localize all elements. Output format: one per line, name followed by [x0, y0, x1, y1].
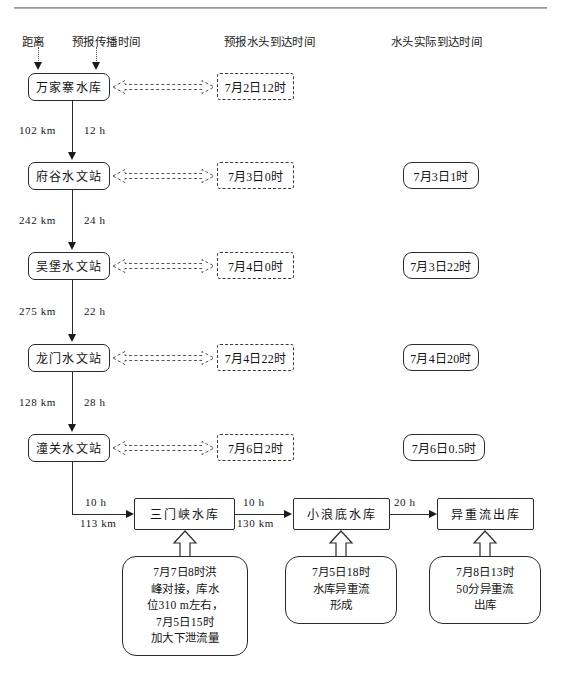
- link-arrow-fugu: [112, 167, 215, 185]
- station-box-fugu[interactable]: 府谷水文站: [28, 162, 110, 190]
- segment-distance-4: 128 km: [19, 396, 56, 408]
- column-header-travel-time: 预报传播时间: [72, 33, 140, 49]
- station-box-tongguan[interactable]: 潼关水文站: [28, 434, 110, 462]
- station-box-wanjiazhai[interactable]: 万家寨水库: [28, 73, 110, 101]
- tongguan-link-time: 10 h: [85, 496, 107, 508]
- forecast-box-fugu[interactable]: 7月3日0时: [217, 162, 294, 189]
- trunk-line-2: [72, 190, 73, 244]
- column-header-distance: 距离: [22, 33, 45, 49]
- note-line: 7月8日13时: [436, 564, 534, 581]
- station-box-longmen[interactable]: 龙门水文站: [28, 344, 110, 372]
- note-box-sanmenxia[interactable]: 7月7日8时洪 峰对接，库水 位310 m左右， 7月5日15时 加大下泄流量: [122, 556, 248, 656]
- trunk-arrow-4: [68, 424, 76, 432]
- segment-distance-2: 242 km: [19, 214, 56, 226]
- link1-distance: 130 km: [237, 517, 274, 529]
- segment-time-1: 12 h: [84, 124, 106, 136]
- link-arrow-tongguan: [112, 439, 215, 457]
- flowchart-canvas: 距离 预报传播时间 预报水头到达时间 水头实际到达时间 万家寨水库 7月2日12…: [0, 0, 561, 689]
- trunk-arrow-1: [68, 152, 76, 160]
- tongguan-drop-line: [72, 462, 73, 515]
- trunk-line-1: [72, 101, 73, 154]
- reservoir-box-xiaolangdi[interactable]: 小浪底水库: [293, 498, 390, 530]
- note-arrow-outflow: [472, 530, 498, 558]
- forecast-box-tongguan[interactable]: 7月6日2时: [217, 434, 294, 461]
- trunk-line-3: [72, 280, 73, 336]
- sanmenxia-to-xiaolangdi-arrow: [284, 510, 292, 518]
- note-line: 7月7日8时洪: [129, 564, 241, 581]
- link-arrow-wubao: [112, 257, 215, 275]
- link1-time: 10 h: [243, 496, 265, 508]
- note-line: 50分异重流: [436, 581, 534, 598]
- trunk-arrow-3: [68, 334, 76, 342]
- travel-time-pointer-arrow: [92, 62, 100, 70]
- note-line: 水库异重流: [292, 581, 390, 598]
- column-header-actual-arrival: 水头实际到达时间: [391, 33, 482, 49]
- note-line: 出库: [436, 597, 534, 614]
- note-line: 7月5日15时: [129, 614, 241, 631]
- note-box-outflow[interactable]: 7月8日13时 50分异重流 出库: [429, 556, 541, 624]
- actual-box-tongguan[interactable]: 7月6日0.5时: [403, 434, 485, 461]
- note-line: 形成: [292, 597, 390, 614]
- actual-box-fugu[interactable]: 7月3日1时: [403, 162, 479, 189]
- xiaolangdi-to-outflow-arrow: [429, 510, 437, 518]
- link-arrow-wanjiazhai: [112, 78, 215, 96]
- note-line: 位310 m左右，: [129, 597, 241, 614]
- sanmenxia-to-xiaolangdi-line: [235, 514, 285, 515]
- segment-time-3: 22 h: [84, 305, 106, 317]
- tongguan-to-sanmenxia-arrow: [126, 510, 134, 518]
- actual-box-longmen[interactable]: 7月4日20时: [403, 344, 479, 371]
- note-line: 7月5日18时: [292, 564, 390, 581]
- page-top-rule: [14, 7, 547, 9]
- forecast-box-longmen[interactable]: 7月4日22时: [217, 344, 294, 371]
- distance-pointer-dotline: [38, 47, 39, 63]
- column-header-forecast-arrival: 预报水头到达时间: [224, 33, 315, 49]
- note-line: 加大下泄流量: [129, 630, 241, 647]
- link-arrow-longmen: [112, 349, 215, 367]
- distance-pointer-arrow: [34, 62, 42, 70]
- note-arrow-xiaolangdi: [328, 530, 354, 558]
- actual-box-wubao[interactable]: 7月3日22时: [403, 252, 479, 279]
- tongguan-to-sanmenxia-line: [72, 514, 127, 515]
- station-box-wubao[interactable]: 吴堡水文站: [28, 252, 110, 280]
- reservoir-box-yizhongliu-outflow[interactable]: 异重流出库: [437, 498, 534, 530]
- trunk-arrow-2: [68, 242, 76, 250]
- segment-time-2: 24 h: [84, 214, 106, 226]
- trunk-line-4: [72, 372, 73, 426]
- link2-time: 20 h: [394, 496, 416, 508]
- note-box-xiaolangdi[interactable]: 7月5日18时 水库异重流 形成: [285, 556, 397, 624]
- reservoir-box-sanmenxia[interactable]: 三门峡水库: [134, 498, 235, 530]
- note-line: 峰对接，库水: [129, 581, 241, 598]
- segment-time-4: 28 h: [84, 396, 106, 408]
- note-arrow-sanmenxia: [172, 530, 198, 558]
- tongguan-link-distance: 113 km: [80, 517, 117, 529]
- xiaolangdi-to-outflow-line: [390, 514, 430, 515]
- segment-distance-3: 275 km: [19, 305, 56, 317]
- forecast-box-wubao[interactable]: 7月4日0时: [217, 252, 294, 279]
- forecast-box-wanjiazhai[interactable]: 7月2日12时: [217, 73, 294, 100]
- travel-time-pointer-dotline: [96, 47, 97, 63]
- segment-distance-1: 102 km: [19, 124, 56, 136]
